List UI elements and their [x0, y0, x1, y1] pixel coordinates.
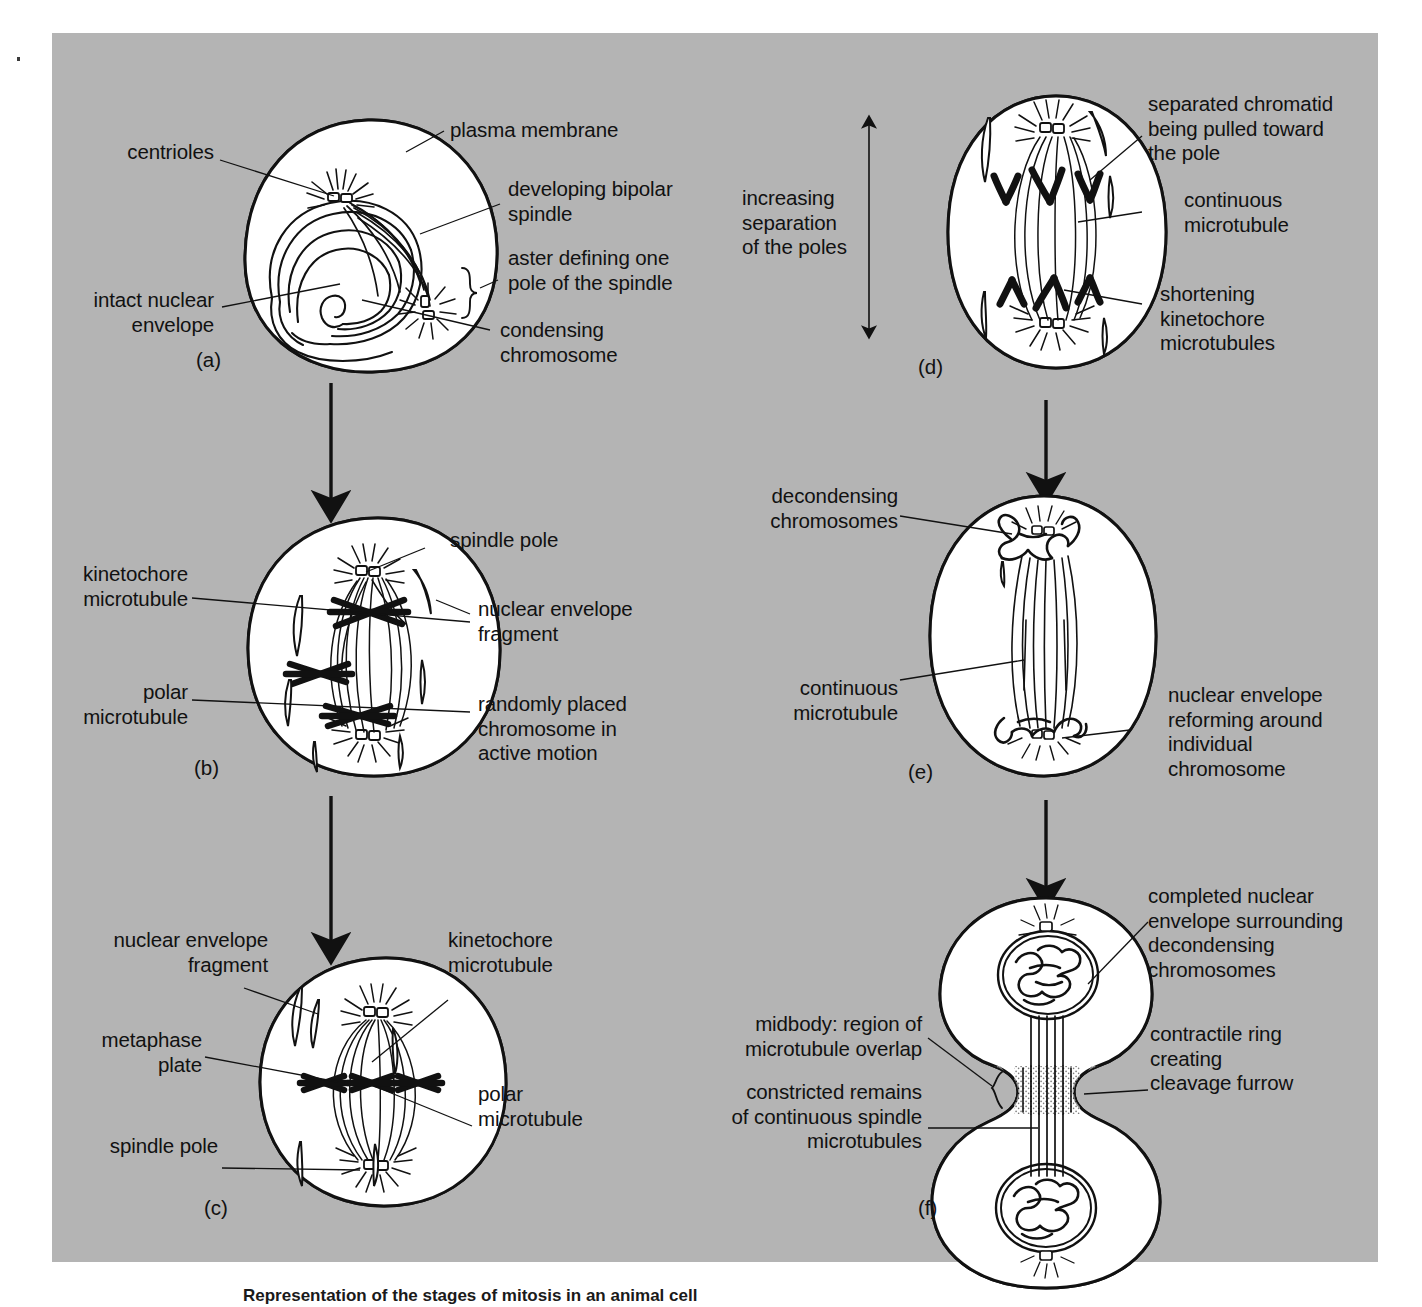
label-separated-chromatid: separated chromatid being pulled toward … — [1148, 92, 1410, 166]
label-spindle-pole-c: spindle pole — [40, 1134, 218, 1159]
label-decondensing-chromosomes-e: decondensing chromosomes — [706, 484, 898, 533]
midbody-overlap-zone — [1014, 1066, 1080, 1114]
panel-letter-b: (b) — [194, 756, 219, 780]
label-contractile-ring: contractile ring creating cleavage furro… — [1150, 1022, 1360, 1096]
label-polar-microtubule-b: polar microtubule — [40, 680, 188, 729]
label-increasing-separation-of-poles: increasing separation of the poles — [742, 186, 872, 260]
label-metaphase-plate: metaphase plate — [40, 1028, 202, 1077]
label-kinetochore-microtubule-b: kinetochore microtubule — [40, 562, 188, 611]
figure-root: centrioles plasma membrane developing bi… — [0, 0, 1422, 1307]
label-midbody-region: midbody: region of microtubule overlap — [700, 1012, 922, 1061]
label-spindle-pole-b: spindle pole — [450, 528, 670, 553]
panel-letter-d: (d) — [918, 355, 943, 379]
panel-letter-a: (a) — [196, 348, 221, 372]
label-nuclear-envelope-fragment-b: nuclear envelope fragment — [478, 597, 708, 646]
panel-b-prometaphase — [192, 518, 525, 800]
label-randomly-placed-chromosome: randomly placed chromosome in active mot… — [478, 692, 708, 766]
figure-caption: Representation of the stages of mitosis … — [243, 1286, 1183, 1306]
label-plasma-membrane: plasma membrane — [450, 118, 710, 143]
panel-letter-e: (e) — [908, 760, 933, 784]
label-condensing-chromosome: condensing chromosome — [500, 318, 720, 367]
label-aster-defining-pole: aster defining one pole of the spindle — [508, 246, 758, 295]
panel-e-telophase — [900, 486, 1190, 800]
midbody-bracket — [992, 1072, 1002, 1108]
label-nuclear-envelope-fragment-c: nuclear envelope fragment — [40, 928, 268, 977]
label-completed-nuclear-envelope: completed nuclear envelope surrounding d… — [1148, 884, 1398, 982]
label-continuous-microtubule-d: continuous microtubule — [1184, 188, 1394, 237]
panel-a-prophase — [220, 110, 520, 400]
label-centrioles: centrioles — [54, 140, 214, 165]
label-constricted-remains: constricted remains of continuous spindl… — [700, 1080, 922, 1154]
label-continuous-microtubule-e: continuous microtubule — [730, 676, 898, 725]
panel-letter-c: (c) — [204, 1196, 228, 1220]
label-shortening-kinetochore-microtubules: shortening kinetochore microtubules — [1160, 282, 1380, 356]
label-intact-nuclear-envelope: intact nuclear envelope — [52, 288, 214, 337]
label-nuclear-envelope-reforming: nuclear envelope reforming around indivi… — [1168, 683, 1388, 781]
label-kinetochore-microtubule-c: kinetochore microtubule — [448, 928, 648, 977]
panel-letter-f: (f) — [918, 1196, 937, 1220]
label-developing-bipolar-spindle: developing bipolar spindle — [508, 177, 738, 226]
label-polar-microtubule-c: polar microtubule — [478, 1082, 678, 1131]
